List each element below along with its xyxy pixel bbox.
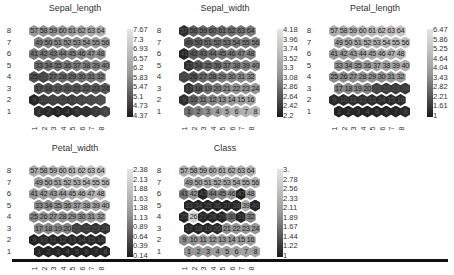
cell-number: 32 xyxy=(395,73,407,81)
cell-number: 16 xyxy=(395,96,407,104)
column-label: 5 xyxy=(369,124,376,132)
row-label: 1 xyxy=(5,107,13,116)
row-label: 3 xyxy=(5,224,13,233)
colorbar-tick-label: 0.64 xyxy=(133,233,148,241)
colorbar-tick-label: 2.33 xyxy=(283,195,298,203)
cell-number: 24 xyxy=(99,225,111,233)
colorbar-tick-label: 1.38 xyxy=(133,204,148,212)
colorbar-tick-label: 1.67 xyxy=(283,223,298,231)
row-label: 4 xyxy=(5,72,13,81)
row-label: 2 xyxy=(305,95,313,104)
row-label: 6 xyxy=(155,189,163,198)
panel-petal-length: Petal_length 876543215758596061626364495… xyxy=(300,0,450,135)
colorbar-tick-label: 5.25 xyxy=(433,45,448,53)
colorbar-tick-label: 1 xyxy=(433,112,437,120)
colorbar-tick-label: 3.74 xyxy=(283,45,298,53)
colorbar-tick-label: 2.64 xyxy=(283,93,298,101)
cell-number: 48 xyxy=(95,50,107,58)
colorbar-tick-label: 6.47 xyxy=(433,26,448,34)
colorbar-tick-label: 5.1 xyxy=(133,93,144,101)
cell-number: 56 xyxy=(249,179,261,187)
row-label: 7 xyxy=(155,178,163,187)
colorbar-tick-label: 1.22 xyxy=(283,242,298,250)
column-label: 2 xyxy=(190,264,197,272)
column-label: 7 xyxy=(88,124,95,132)
colorbar-tick-label: 3.52 xyxy=(283,55,298,63)
cell-number: 64 xyxy=(95,167,107,175)
column-label: 2 xyxy=(40,124,47,132)
colorbar-tick-label: 3.96 xyxy=(283,36,298,44)
column-label: 1 xyxy=(31,124,38,132)
colorbar-tick-label: 1.13 xyxy=(133,214,148,222)
cell-number: 24 xyxy=(99,85,111,93)
cell-number: 64 xyxy=(395,27,407,35)
column-label: 5 xyxy=(219,124,226,132)
colorbar-tick-label: 6.2 xyxy=(133,64,144,72)
colorbar-tick-label: 3.08 xyxy=(283,74,298,82)
cell-number: 32 xyxy=(95,213,107,221)
column-label: 6 xyxy=(78,264,85,272)
colorbar-tick-label: 4.04 xyxy=(433,64,448,72)
row-label: 6 xyxy=(155,49,163,58)
cell-number: 40 xyxy=(249,62,261,70)
divider-rule xyxy=(12,259,448,262)
cell-number: 8 xyxy=(249,108,261,116)
row-label: 2 xyxy=(5,235,13,244)
colorbar-tick-label: 0.39 xyxy=(133,242,148,250)
column-label: 7 xyxy=(238,264,245,272)
column-label: 7 xyxy=(238,124,245,132)
cell-number: 40 xyxy=(399,62,411,70)
colorbar-tick-label: 1.44 xyxy=(283,233,298,241)
colorbar-tick-label: 1.88 xyxy=(133,185,148,193)
panel-title: Sepal_width xyxy=(150,3,300,13)
column-label: 7 xyxy=(88,264,95,272)
column-label: 3 xyxy=(50,264,57,272)
column-label: 3 xyxy=(50,124,57,132)
panel-sepal-length: Sepal_length 876543215758596061626364495… xyxy=(0,0,150,135)
column-label: 6 xyxy=(228,264,235,272)
row-label: 4 xyxy=(305,72,313,81)
cell-number: 48 xyxy=(395,50,407,58)
cell-number: 16 xyxy=(245,236,257,244)
colorbar-tick-label: 1.61 xyxy=(433,102,448,110)
colorbar-tick-label: 2.42 xyxy=(283,102,298,110)
colorbar-tick-label: 6.93 xyxy=(133,45,148,53)
row-label: 3 xyxy=(305,84,313,93)
cell-number: 48 xyxy=(245,190,257,198)
colorbar-tick-label: 2.13 xyxy=(133,176,148,184)
column-label: 2 xyxy=(190,124,197,132)
cell-number: 16 xyxy=(95,236,107,244)
cell-number: 8 xyxy=(99,108,111,116)
cell-number: 8 xyxy=(399,108,411,116)
column-label: 3 xyxy=(350,124,357,132)
column-label: 8 xyxy=(397,124,404,132)
colorbar-tick-label: 2.82 xyxy=(433,83,448,91)
column-label: 2 xyxy=(40,264,47,272)
colorbar-tick-label: 7.67 xyxy=(133,26,148,34)
cell-number: 48 xyxy=(95,190,107,198)
column-label: 4 xyxy=(209,264,216,272)
row-label: 3 xyxy=(155,224,163,233)
cell-number: 24 xyxy=(399,85,411,93)
column-label: 4 xyxy=(59,124,66,132)
column-label: 4 xyxy=(59,264,66,272)
cell-number: 16 xyxy=(95,96,107,104)
column-label: 6 xyxy=(228,124,235,132)
cell-number: 56 xyxy=(99,179,111,187)
row-label: 8 xyxy=(5,166,13,175)
row-label: 6 xyxy=(5,189,13,198)
cell-number: 24 xyxy=(249,225,261,233)
cell-number: 8 xyxy=(99,248,111,256)
cell-number: 32 xyxy=(95,73,107,81)
cell-number: 8 xyxy=(249,248,261,256)
column-label: 4 xyxy=(209,124,216,132)
row-label: 5 xyxy=(155,61,163,70)
row-label: 4 xyxy=(155,72,163,81)
row-label: 1 xyxy=(155,247,163,256)
colorbar-tick-label: 5.86 xyxy=(433,36,448,44)
cell-number: 32 xyxy=(245,213,257,221)
row-label: 4 xyxy=(5,212,13,221)
row-label: 7 xyxy=(305,38,313,47)
colorbar-tick-label: 4.37 xyxy=(133,112,148,120)
row-label: 3 xyxy=(5,84,13,93)
